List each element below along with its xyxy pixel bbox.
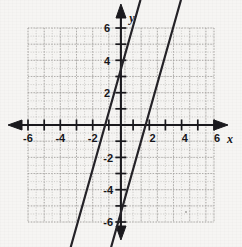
y-tick-label--6: -6 — [103, 216, 113, 228]
y-tick-label-2: 2 — [104, 87, 110, 99]
plotted-lines — [71, 1, 181, 247]
coordinate-plane-figure: -6 -4 -2 2 4 6 6 4 2 -2 -4 -6 x y — [0, 0, 242, 247]
y-axis-label: y — [127, 11, 135, 25]
x-tick-label-4: 4 — [182, 132, 189, 144]
x-axis-arrow-left — [8, 120, 22, 130]
x-axis-label: x — [226, 132, 233, 146]
axes — [8, 4, 228, 240]
x-tick-label--6: -6 — [23, 132, 33, 144]
x-tick-label--4: -4 — [55, 132, 66, 144]
line-1-y-eq-3x-plus-3 — [71, 1, 140, 247]
y-tick-label--2: -2 — [103, 152, 113, 164]
scan-speck — [185, 211, 187, 213]
y-tick-label-4: 4 — [104, 55, 111, 67]
y-tick-label-6: 6 — [104, 22, 110, 34]
x-tick-label--2: -2 — [88, 132, 98, 144]
coordinate-plane-svg: -6 -4 -2 2 4 6 6 4 2 -2 -4 -6 x y — [0, 0, 242, 247]
x-tick-label-2: 2 — [149, 132, 155, 144]
x-tick-label-6: 6 — [214, 132, 220, 144]
y-tick-label--4: -4 — [103, 184, 114, 196]
y-axis-arrow-up — [116, 4, 126, 18]
x-axis-arrow-right — [214, 120, 228, 130]
